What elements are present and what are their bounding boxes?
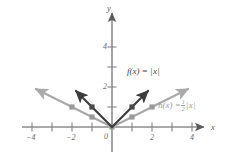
fraction-numerator: 1 bbox=[181, 99, 185, 106]
curve-label-f-arg: (x) bbox=[130, 66, 140, 76]
curve-label-h-equals: = bbox=[175, 100, 181, 110]
curve-label-f: f(x) = |x| bbox=[127, 67, 160, 76]
curve-label-f-equals: = bbox=[142, 66, 148, 76]
y-tick-label-2: 2 bbox=[103, 82, 107, 91]
origin-label: 0 bbox=[104, 132, 108, 141]
x-axis-label: x bbox=[211, 122, 215, 132]
curve-label-h-expr: |x| bbox=[186, 100, 196, 110]
x-tick-label-4: 4 bbox=[190, 133, 194, 142]
y-axis-label: y bbox=[107, 3, 111, 13]
y-axis bbox=[108, 13, 117, 152]
x-tick-label--4: −4 bbox=[26, 133, 35, 142]
curve-label-h-fraction: 12 bbox=[181, 99, 185, 113]
fraction-denominator: 2 bbox=[181, 106, 185, 112]
x-tick-label--2: −2 bbox=[66, 133, 75, 142]
absolute-value-graph-figure: −4 −2 2 4 0 2 4 x y f(x) = |x| h(x) =12|… bbox=[0, 0, 232, 159]
curve-label-h-arg: (x) bbox=[163, 100, 173, 110]
x-tick-label-2: 2 bbox=[150, 133, 154, 142]
curve-label-f-expr: |x| bbox=[150, 66, 160, 76]
y-tick-label-4: 4 bbox=[103, 42, 107, 51]
curve-label-h: h(x) =12|x| bbox=[158, 99, 196, 113]
